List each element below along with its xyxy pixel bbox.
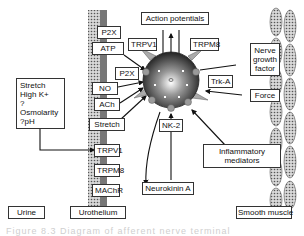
afferent-terminal-diagram: Action potentials P2X ATP TRPV1 TRPM8 P2… [0, 0, 304, 236]
trpm8-urothelium-label: TRPM8 [94, 164, 120, 177]
neurokinin-a-label: Neurokinin A [142, 182, 194, 195]
trpm8-top-label: TRPM8 [190, 38, 219, 51]
trpv1-top-label: TRPV1 [128, 38, 157, 51]
action-potentials-label: Action potentials [141, 12, 209, 25]
nerve-terminal [134, 48, 208, 112]
smooth-muscle-label: Smooth muscle [236, 206, 292, 219]
urine-label: Urine [8, 206, 45, 219]
figure-caption: Figure 8.3 Diagram of afferent nerve ter… [6, 226, 230, 236]
atp-label: ATP [92, 42, 124, 55]
urothelial-stimuli-label: Stretch High K+ ?Osmolarity ?pH [16, 78, 65, 129]
urothelium-label: Urothelium [70, 206, 126, 219]
ach-label: ACh [94, 98, 120, 111]
no-label: NO [92, 82, 118, 95]
inflammatory-mediators-label: Inflammatory mediators [203, 144, 281, 168]
p2x-top-label: P2X [97, 26, 121, 39]
stretch-urothelium-label: Stretch [89, 118, 125, 131]
machr-label: MAChR [92, 184, 120, 197]
nerve-growth-factor-label: Nerve growth factor [250, 43, 280, 76]
trk-a-label: Trk-A [208, 75, 233, 88]
nk2-label: NK-2 [159, 119, 183, 132]
smooth-muscle-cells [270, 8, 296, 212]
trpv1-urothelium-label: TRPV1 [94, 144, 120, 157]
p2x-mid-label: P2X [115, 67, 139, 80]
force-label: Force [250, 89, 280, 102]
